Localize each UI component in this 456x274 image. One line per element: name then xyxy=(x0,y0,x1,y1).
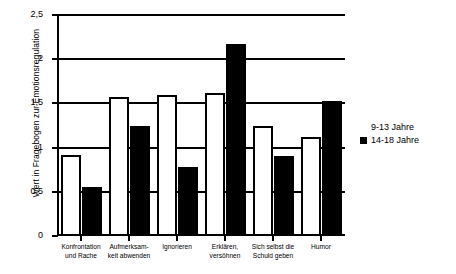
y-axis-tick-label: 1,5 xyxy=(30,97,43,107)
x-axis-tick xyxy=(320,235,322,241)
bar xyxy=(61,155,81,236)
y-axis-tick-label: 1 xyxy=(38,142,43,152)
bar xyxy=(274,156,294,236)
y-axis-tick-label: 2 xyxy=(38,53,43,63)
gridline xyxy=(57,102,345,104)
legend-label: 14-18 Jahre xyxy=(371,134,419,147)
bar xyxy=(157,95,177,236)
category-label-line: Schuld geben xyxy=(241,252,305,261)
y-axis-tick: 1 xyxy=(52,147,58,149)
bar xyxy=(322,101,342,236)
bar xyxy=(253,126,273,236)
x-axis-tick xyxy=(128,235,130,241)
legend-swatch-light xyxy=(360,124,367,131)
gridline xyxy=(57,14,345,16)
x-axis-tick xyxy=(176,235,178,241)
bar xyxy=(226,44,246,236)
bar xyxy=(82,187,102,237)
y-axis-tick: 0,5 xyxy=(52,191,58,193)
x-axis-tick xyxy=(80,235,82,241)
y-axis-tick-label: 2,5 xyxy=(30,9,43,19)
category-label-line: Humor xyxy=(289,243,353,252)
y-axis-tick: 0 xyxy=(52,235,58,237)
category-label: Humor xyxy=(289,243,353,252)
chart-legend: 9-13 Jahre14-18 Jahre xyxy=(360,121,419,147)
legend-swatch-dark xyxy=(360,137,367,144)
bar-chart-figure: Wert in Fragebogen zur Emotionsregulatio… xyxy=(0,0,456,274)
y-axis-tick-label: 0,5 xyxy=(30,186,43,196)
y-axis-tick-label: 0 xyxy=(38,230,43,240)
category-label-line: keit abwenden xyxy=(97,252,161,261)
gridline xyxy=(57,58,345,60)
bar xyxy=(178,167,198,236)
bar xyxy=(109,97,129,236)
bar xyxy=(205,93,225,236)
bar xyxy=(130,126,150,237)
y-axis-line xyxy=(57,15,59,236)
y-axis-tick: 1,5 xyxy=(52,102,58,104)
x-axis-tick xyxy=(224,235,226,241)
y-axis-tick: 2,5 xyxy=(52,14,58,16)
legend-label: 9-13 Jahre xyxy=(371,121,414,134)
legend-item: 9-13 Jahre xyxy=(360,121,419,134)
y-axis-tick: 2 xyxy=(52,58,58,60)
bar xyxy=(301,137,321,236)
x-axis-tick xyxy=(272,235,274,241)
legend-item: 14-18 Jahre xyxy=(360,134,419,147)
plot-area: 00,511,522,5 xyxy=(57,15,345,236)
